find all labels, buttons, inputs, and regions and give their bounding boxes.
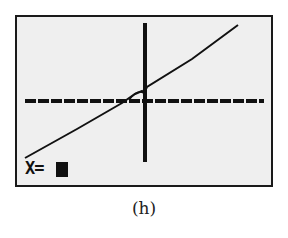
- graph-plot: [17, 17, 271, 185]
- plotted-line: [25, 25, 238, 158]
- figure-caption: (h): [0, 198, 288, 218]
- x-prompt-label: X=: [25, 160, 43, 177]
- block-cursor-icon[interactable]: [56, 162, 68, 177]
- calculator-screen: X=: [15, 15, 273, 187]
